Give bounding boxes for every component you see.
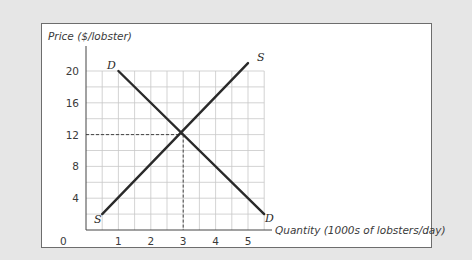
x-tick-label: 4 (212, 235, 219, 247)
x-axis-label: Quantity (1000s of lobsters/day) (275, 224, 446, 236)
demand-curve (118, 71, 264, 214)
supply-label-bottom: S (94, 213, 102, 226)
y-tick-label: 12 (66, 129, 79, 141)
y-tick-label: 16 (66, 97, 80, 109)
y-tick-label: 8 (72, 160, 79, 172)
y-axis-label: Price ($/lobster) (48, 30, 132, 42)
supply-label-top: S (257, 51, 265, 64)
x-tick-label: 1 (115, 235, 122, 247)
grid (86, 71, 264, 230)
demand-label-bottom: D (264, 212, 274, 225)
x-tick-label: 3 (180, 235, 187, 247)
origin-label: 0 (60, 235, 67, 247)
supply-demand-chart: 1234548121620 Price ($/lobster) Quantity… (0, 0, 472, 260)
demand-label-top: D (106, 59, 116, 72)
y-tick-label: 20 (66, 65, 79, 77)
x-tick-label: 2 (147, 235, 154, 247)
y-tick-label: 4 (72, 192, 79, 204)
supply-curve (102, 63, 248, 214)
x-tick-label: 5 (245, 235, 252, 247)
